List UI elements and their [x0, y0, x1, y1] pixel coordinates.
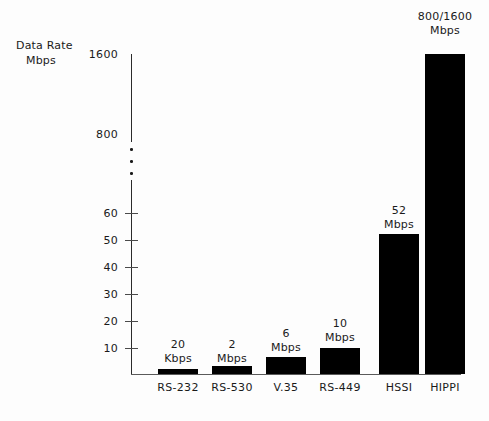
bar-rs-232	[158, 369, 198, 374]
y-axis-upper-segment	[131, 54, 132, 142]
y-tick-label-800: 800	[72, 129, 118, 140]
bar-v-35	[266, 357, 306, 374]
bar-value-unit: Mbps	[400, 24, 489, 38]
bar-hippi	[425, 54, 465, 374]
x-axis-baseline	[131, 374, 461, 375]
y-tick-mark-50	[125, 240, 138, 241]
y-tick-label-40: 40	[72, 262, 118, 273]
y-tick-mark-30	[125, 294, 138, 295]
bar-value-label-hippi: 800/1600Mbps	[400, 10, 489, 38]
bar-rs-530	[212, 366, 252, 374]
bar-value-number: 10	[295, 317, 385, 331]
y-tick-label-1600: 1600	[72, 49, 118, 60]
y-tick-label-text: 800	[74, 129, 118, 140]
x-category-label-hippi: HIPPI	[400, 381, 489, 394]
y-tick-label-text: 30	[74, 289, 118, 300]
bar-chart: Data Rate Mbps 1600800605040302010 20Kbp…	[0, 0, 489, 421]
y-tick-label-text: 50	[74, 235, 118, 246]
axis-break-dot-2	[130, 160, 133, 163]
y-tick-label-60: 60	[72, 208, 118, 219]
bar-rs-449	[320, 348, 360, 374]
y-tick-mark-60	[125, 213, 138, 214]
y-tick-label-text: 40	[74, 262, 118, 273]
y-tick-label-20: 20	[72, 316, 118, 327]
y-tick-label-30: 30	[72, 289, 118, 300]
bar-value-number: 800/1600	[400, 10, 489, 24]
bar-value-label-rs-449: 10Mbps	[295, 317, 385, 345]
bar-value-unit: Mbps	[295, 331, 385, 345]
axis-break-dot-3	[130, 172, 133, 175]
y-tick-label-text: 10	[74, 343, 118, 354]
y-tick-label-text: 1600	[74, 49, 118, 60]
y-tick-mark-40	[125, 267, 138, 268]
y-tick-label-text: 20	[74, 316, 118, 327]
y-tick-label-50: 50	[72, 235, 118, 246]
y-tick-label-text: 60	[74, 208, 118, 219]
y-tick-label-10: 10	[72, 343, 118, 354]
bar-hssi	[379, 234, 419, 374]
axis-break-dot-1	[130, 148, 133, 151]
y-tick-mark-20	[125, 321, 138, 322]
